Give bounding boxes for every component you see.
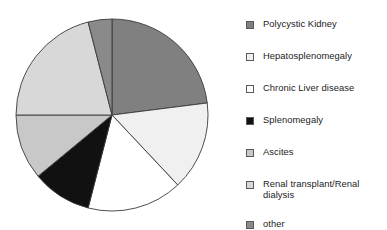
legend-swatch-icon bbox=[246, 85, 254, 93]
legend-swatch-icon bbox=[246, 149, 254, 157]
legend-item-label: other bbox=[263, 218, 285, 229]
legend-swatch-icon bbox=[246, 181, 254, 189]
legend-item-chronic-liver-disease[interactable]: Chronic Liver disease bbox=[246, 82, 387, 93]
legend-item-label: Splenomegaly bbox=[263, 114, 323, 125]
legend-item-label: Ascites bbox=[263, 146, 294, 157]
chart-legend: Polycystic KidneyHepatosplenomegalyChron… bbox=[246, 9, 387, 221]
legend-item-label: Renal transplant/Renal dialysis bbox=[263, 178, 359, 201]
legend-item-ascites[interactable]: Ascites bbox=[246, 146, 387, 157]
legend-swatch-icon bbox=[246, 53, 254, 61]
legend-item-splenomegaly[interactable]: Splenomegaly bbox=[246, 114, 387, 125]
legend-swatch-icon bbox=[246, 117, 254, 125]
legend-item-polycystic-kidney[interactable]: Polycystic Kidney bbox=[246, 18, 387, 29]
legend-item-hepatosplenomegaly[interactable]: Hepatosplenomegaly bbox=[246, 50, 387, 61]
pie-chart-svg bbox=[0, 0, 230, 230]
legend-swatch-icon bbox=[246, 221, 254, 229]
legend-swatch-icon bbox=[246, 21, 254, 29]
legend-item-other[interactable]: other bbox=[246, 218, 387, 229]
pie-chart-figure: Polycystic KidneyHepatosplenomegalyChron… bbox=[0, 0, 387, 230]
legend-item-label: Hepatosplenomegaly bbox=[263, 50, 352, 61]
legend-item-label: Chronic Liver disease bbox=[263, 82, 354, 93]
pie-slice-group bbox=[16, 19, 208, 211]
pie-slice bbox=[112, 19, 207, 115]
pie-chart-plot-area bbox=[0, 0, 230, 230]
legend-item-label: Polycystic Kidney bbox=[263, 18, 337, 29]
legend-item-renal-transplant-renal-dialysis[interactable]: Renal transplant/Renal dialysis bbox=[246, 178, 387, 201]
